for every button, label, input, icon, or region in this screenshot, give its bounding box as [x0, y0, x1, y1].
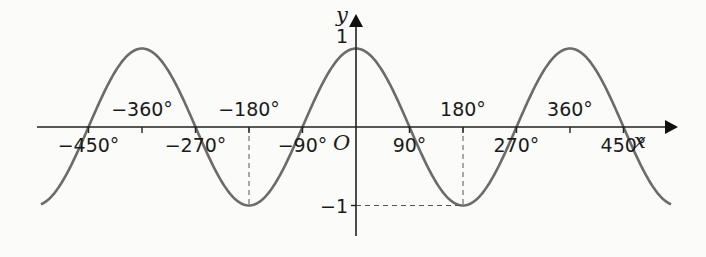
- y-axis: [349, 14, 363, 236]
- y-tick-label: −1: [320, 195, 348, 217]
- x-axis-label: x: [634, 129, 646, 153]
- y-axis-arrow-icon: [349, 14, 363, 27]
- x-tick-label: −180°: [218, 98, 280, 120]
- x-tick-label: −450°: [58, 134, 120, 156]
- y-axis-label: y: [335, 3, 349, 27]
- cosine-graph: −450°−360°−270°−180°−90°90°180°270°360°4…: [0, 0, 706, 257]
- x-tick-label: 360°: [547, 98, 593, 120]
- x-axis-arrow-icon: [665, 120, 678, 134]
- x-tick-label: 180°: [440, 98, 486, 120]
- x-tick-label: −360°: [111, 98, 173, 120]
- x-axis: [37, 120, 678, 134]
- origin-label: O: [333, 131, 350, 155]
- x-tick-label: −270°: [165, 134, 227, 156]
- x-tick-label: −90°: [278, 134, 328, 156]
- x-tick-label: 270°: [494, 134, 540, 156]
- x-tick-label: 90°: [393, 134, 427, 156]
- y-tick-label: 1: [336, 25, 348, 47]
